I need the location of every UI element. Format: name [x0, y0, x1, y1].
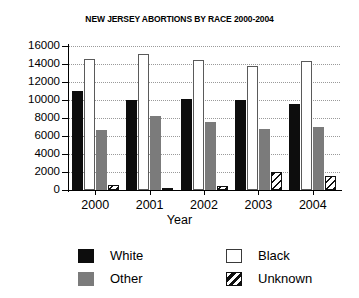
legend-swatch-icon	[78, 272, 94, 286]
y-axis-tick-label: 14000	[8, 58, 60, 70]
legend-swatch-icon	[226, 272, 242, 286]
x-axis-tick-label: 2002	[174, 198, 234, 212]
bar-other-2000[interactable]	[96, 130, 107, 190]
bar-other-2004[interactable]	[313, 127, 324, 190]
bar-other-2003[interactable]	[259, 129, 270, 190]
x-axis-tick	[258, 190, 259, 195]
y-axis-tick-label: 10000	[8, 94, 60, 106]
x-axis-tick	[95, 190, 96, 195]
y-axis-tick-label: 0	[8, 184, 60, 196]
bar-group	[235, 46, 282, 190]
bar-black-2004[interactable]	[301, 61, 312, 190]
x-axis-tick	[313, 190, 314, 195]
x-axis-tick-label: 2000	[65, 198, 125, 212]
bar-black-2001[interactable]	[138, 54, 149, 190]
x-axis-title: Year	[0, 213, 359, 227]
bar-other-2002[interactable]	[205, 122, 216, 190]
legend-label: Other	[110, 271, 143, 287]
legend-label: Black	[258, 248, 290, 264]
bar-group	[72, 46, 119, 190]
x-axis-tick	[204, 190, 205, 195]
x-axis-tick-label: 2001	[120, 198, 180, 212]
x-axis-tick-label: 2004	[283, 198, 343, 212]
bar-unknown-2001[interactable]	[162, 188, 173, 190]
bar-unknown-2004[interactable]	[325, 176, 336, 190]
bar-white-2003[interactable]	[235, 100, 246, 190]
bar-other-2001[interactable]	[150, 116, 161, 190]
y-axis-tick-label: 2000	[8, 166, 60, 178]
bar-unknown-2002[interactable]	[217, 186, 228, 190]
bar-white-2002[interactable]	[181, 99, 192, 190]
legend-label: White	[110, 248, 143, 264]
bar-unknown-2000[interactable]	[108, 185, 119, 190]
y-axis-tick-label: 4000	[8, 148, 60, 160]
bar-group	[289, 46, 336, 190]
y-axis-tick-label: 8000	[8, 112, 60, 124]
chart-title: NEW JERSEY ABORTIONS BY RACE 2000-2004	[0, 14, 359, 24]
plot-area	[68, 46, 340, 190]
x-axis-tick	[150, 190, 151, 195]
bar-group	[181, 46, 228, 190]
legend-swatch-icon	[78, 249, 94, 263]
bar-white-2001[interactable]	[126, 100, 137, 190]
legend-label: Unknown	[258, 271, 312, 287]
bar-white-2004[interactable]	[289, 104, 300, 190]
bar-chart: NEW JERSEY ABORTIONS BY RACE 2000-2004 0…	[0, 0, 359, 298]
bar-white-2000[interactable]	[72, 91, 83, 190]
y-axis-tick-label: 6000	[8, 130, 60, 142]
chart-legend: WhiteBlackOtherUnknown	[78, 248, 338, 292]
y-axis-tick-label: 16000	[8, 40, 60, 52]
bar-black-2003[interactable]	[247, 66, 258, 190]
bar-unknown-2003[interactable]	[271, 172, 282, 190]
legend-swatch-icon	[226, 249, 242, 263]
bar-group	[126, 46, 173, 190]
x-axis-tick-label: 2003	[228, 198, 288, 212]
bar-black-2000[interactable]	[84, 59, 95, 190]
y-axis-tick-label: 12000	[8, 76, 60, 88]
bar-black-2002[interactable]	[193, 60, 204, 191]
